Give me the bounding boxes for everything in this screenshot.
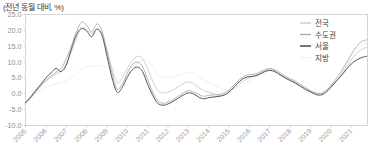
x-axis-tick-label: 2012 <box>154 127 170 143</box>
y-axis-tick-label: 10.0 <box>8 58 22 67</box>
y-axis-tick-label: 15.0 <box>8 42 22 51</box>
chart-container: (전년 동월 대비, %) 25.020.015.010.05.00.0-5.0… <box>0 0 371 160</box>
y-axis-tick-label: -10.0 <box>5 121 21 130</box>
y-axis-tick-label: 25.0 <box>8 12 22 19</box>
x-axis-tick-label: 2017 <box>256 127 272 143</box>
y-axis-tick-label: 0.0 <box>12 89 22 98</box>
x-axis-tick-label: 2011 <box>134 127 150 143</box>
legend-label-수도권: 수도권 <box>315 31 336 40</box>
legend-label-서울: 서울 <box>315 42 329 51</box>
y-axis-tick-labels: 25.020.015.010.05.00.0-5.0-10.0 <box>5 12 21 130</box>
x-axis-tick-label: 2009 <box>93 127 109 143</box>
y-axis-tick-label: 20.0 <box>8 26 22 35</box>
plot-area-wrapper: 25.020.015.010.05.00.0-5.0-10.0 20052006… <box>0 12 371 160</box>
x-axis-tick-label: 2018 <box>276 127 292 143</box>
x-axis-tick-label: 2014 <box>195 127 211 143</box>
line-chart-svg: 25.020.015.010.05.00.0-5.0-10.0 20052006… <box>0 12 371 160</box>
legend-label-전국: 전국 <box>315 18 329 28</box>
x-axis-tick-label: 2013 <box>175 127 191 143</box>
x-axis-tick-label: 2007 <box>52 127 68 143</box>
x-axis-tick-label: 2020 <box>317 127 333 143</box>
x-axis-tick-labels: 2005200620072008200920102011201220132014… <box>12 127 354 143</box>
y-axis-tick-label: -5.0 <box>9 105 21 114</box>
x-axis-tick-label: 2006 <box>32 127 48 143</box>
unit-label: (전년 동월 대비, %) <box>3 1 64 12</box>
chart-legend: 전국수도권서울지방 <box>300 18 336 63</box>
x-axis-tick-label: 2021 <box>337 127 353 143</box>
legend-label-지방: 지방 <box>315 53 329 63</box>
x-axis-tick-label: 2016 <box>236 127 252 143</box>
x-axis-tick-label: 2010 <box>114 127 130 143</box>
series-line-지방 <box>26 43 367 100</box>
x-axis-tick-label: 2015 <box>215 127 231 143</box>
x-axis-tick-label: 2019 <box>297 127 313 143</box>
y-axis-tick-label: 5.0 <box>12 73 22 82</box>
x-axis-tick-label: 2008 <box>73 127 89 143</box>
